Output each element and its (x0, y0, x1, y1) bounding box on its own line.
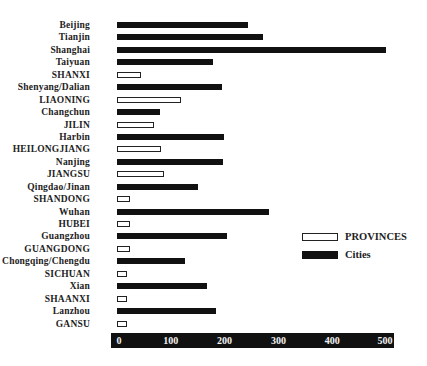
province-bar (117, 97, 181, 103)
chart-row: SHANXI (0, 69, 400, 81)
category-label: Taiyuan (56, 56, 90, 68)
legend-label-cities: Cities (345, 248, 371, 262)
category-label: SHAANXI (45, 293, 90, 305)
chart-row: SICHUAN (0, 268, 400, 280)
category-label: JILIN (64, 119, 90, 131)
category-label: GANSU (56, 318, 90, 330)
category-label: Xian (70, 280, 90, 292)
city-bar (117, 59, 213, 65)
category-label: JIANGSU (47, 168, 90, 180)
x-tick-label: 100 (163, 333, 178, 348)
city-bar (117, 34, 263, 40)
chart-row: Taiyuan (0, 56, 400, 68)
chart-row: SHANDONG (0, 193, 400, 205)
chart-row: Beijing (0, 19, 400, 31)
category-label: Guangzhou (41, 230, 90, 242)
category-label: LIAONING (39, 94, 90, 106)
city-bar (117, 84, 222, 90)
province-bar (117, 72, 141, 78)
province-bar (117, 296, 127, 302)
category-label: Harbin (59, 131, 90, 143)
city-bar (117, 233, 227, 239)
category-label: HUBEI (58, 218, 90, 230)
chart-row: Chongqing/Chengdu (0, 255, 400, 267)
category-label: Shenyang/Dalian (18, 81, 90, 93)
province-bar (117, 321, 127, 327)
category-label: Shanghai (50, 44, 90, 56)
chart-row: GUANGDONG (0, 243, 400, 255)
chart-row: JILIN (0, 119, 400, 131)
category-label: SHANDONG (34, 193, 91, 205)
province-bar (117, 246, 130, 252)
chart-row: Changchun (0, 106, 400, 118)
province-bar (117, 196, 130, 202)
city-bar (117, 184, 198, 190)
city-bar (117, 159, 223, 165)
category-label: Tianjin (59, 31, 90, 43)
category-label: Changchun (41, 106, 90, 118)
city-bar (117, 47, 386, 53)
x-tick-label: 0 (117, 333, 122, 348)
chart-row: HUBEI (0, 218, 400, 230)
chart-row: Lanzhou (0, 305, 400, 317)
category-label: HEILONGJIANG (13, 143, 90, 155)
city-bar (117, 22, 248, 28)
category-label: GUANGDONG (24, 243, 90, 255)
chart-row: GANSU (0, 318, 400, 330)
x-tick-label: 200 (217, 333, 232, 348)
chart-row: Wuhan (0, 206, 400, 218)
legend-label-provinces: PROVINCES (345, 230, 407, 244)
legend-swatch-cities (302, 251, 338, 259)
city-bar (117, 283, 207, 289)
category-label: Qingdao/Jinan (27, 181, 90, 193)
province-bar (117, 146, 161, 152)
x-axis: 0100200300400500 (111, 333, 394, 348)
x-tick-label: 400 (325, 333, 340, 348)
chart-row: Shanghai (0, 44, 400, 56)
category-label: Beijing (60, 19, 90, 31)
legend-swatch-provinces (302, 233, 338, 241)
chart-row: SHAANXI (0, 293, 400, 305)
city-bar (117, 209, 269, 215)
chart-row: JIANGSU (0, 168, 400, 180)
category-label: SICHUAN (45, 268, 90, 280)
category-label: Lanzhou (53, 305, 90, 317)
x-tick-label: 300 (271, 333, 286, 348)
province-bar (117, 171, 164, 177)
category-label: Nanjing (56, 156, 90, 168)
category-label: Chongqing/Chengdu (2, 255, 90, 267)
chart-row: HEILONGJIANG (0, 143, 400, 155)
province-bar (117, 271, 127, 277)
chart-row: Guangzhou (0, 230, 400, 242)
chart-row: Qingdao/Jinan (0, 181, 400, 193)
bar-chart: BeijingTianjinShanghaiTaiyuanSHANXISheny… (0, 0, 427, 366)
chart-row: Nanjing (0, 156, 400, 168)
chart-row: Xian (0, 280, 400, 292)
city-bar (117, 109, 160, 115)
chart-row: Tianjin (0, 31, 400, 43)
province-bar (117, 221, 130, 227)
province-bar (117, 122, 154, 128)
city-bar (117, 258, 185, 264)
chart-row: Harbin (0, 131, 400, 143)
chart-row: LIAONING (0, 94, 400, 106)
x-tick-label: 500 (378, 333, 393, 348)
category-label: SHANXI (52, 69, 90, 81)
city-bar (117, 134, 224, 140)
city-bar (117, 308, 216, 314)
category-label: Wuhan (59, 206, 90, 218)
chart-row: Shenyang/Dalian (0, 81, 400, 93)
